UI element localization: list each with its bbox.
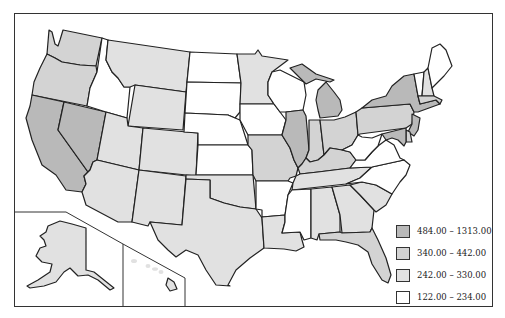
legend-label: 122.00 – 234.00: [417, 292, 486, 302]
state-hawaii: [131, 259, 177, 291]
legend-swatch: [396, 247, 410, 260]
state-new-mexico: [132, 170, 186, 226]
legend-swatch: [396, 269, 410, 282]
state-south-dakota: [185, 82, 241, 118]
state-florida: [319, 228, 391, 283]
state-north-dakota: [187, 52, 241, 83]
legend-item: 484.00 – 1313.00: [396, 221, 496, 241]
legend-label: 484.00 – 1313.00: [417, 226, 492, 236]
legend-label: 242.00 – 330.00: [417, 270, 486, 280]
legend-swatch: [396, 291, 410, 304]
state-colorado: [139, 128, 198, 176]
legend-label: 340.00 – 442.00: [417, 248, 486, 258]
legend-item: 242.00 – 330.00: [396, 265, 496, 285]
legend-swatch: [396, 225, 410, 238]
state-wyoming: [128, 85, 186, 130]
legend: 484.00 – 1313.00 340.00 – 442.00 242.00 …: [396, 221, 496, 309]
legend-item: 340.00 – 442.00: [396, 243, 496, 263]
state-maine: [428, 44, 452, 88]
state-arizona: [82, 160, 139, 222]
legend-item: 122.00 – 234.00: [396, 287, 496, 307]
state-kansas: [196, 145, 253, 175]
